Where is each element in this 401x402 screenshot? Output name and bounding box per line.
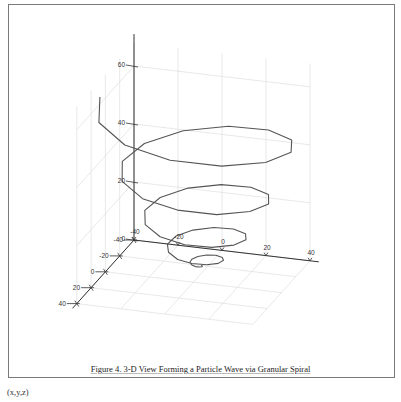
y-tick-label: -20 (99, 252, 109, 259)
floor-grid-line (105, 272, 281, 293)
spiral-series-line (99, 97, 292, 267)
z-tick-label: 60 (118, 61, 126, 68)
y-tick (67, 301, 80, 307)
x-tick-label: -40 (130, 228, 140, 235)
y-tick-label: 40 (59, 300, 67, 307)
y-tick-label: 20 (73, 284, 81, 291)
spiral-3d-plot: -40-2002040-40-20020400204060 (0, 0, 401, 402)
y-tick-label: 0 (91, 268, 95, 275)
z-tick-label: 20 (118, 177, 126, 184)
x-axis-line (134, 240, 319, 262)
figure-caption-text: Figure 4. 3-D View Forming a Particle Wa… (91, 364, 311, 374)
x-tick-label: -20 (174, 233, 184, 240)
y-tick (110, 253, 123, 259)
grid-layer (77, 43, 310, 325)
x-tick-label: 20 (263, 244, 271, 251)
z-tick-label: 40 (118, 119, 126, 126)
tick-labels-layer: -40-2002040-40-20020400204060 (59, 61, 315, 307)
coordinate-label: (x,y,z) (7, 387, 29, 397)
y-tick (95, 269, 108, 275)
floor-grid-line (91, 288, 267, 309)
axes-layer (67, 34, 319, 308)
x-tick-label: 40 (307, 249, 315, 256)
z-tick-label: 0 (121, 235, 125, 242)
series-layer (99, 97, 292, 267)
figure-caption: Figure 4. 3-D View Forming a Particle Wa… (0, 364, 401, 374)
floor-grid-line (120, 256, 296, 277)
x-tick-label: 0 (221, 238, 225, 245)
floor-grid-line (77, 304, 253, 325)
y-tick (81, 285, 94, 291)
